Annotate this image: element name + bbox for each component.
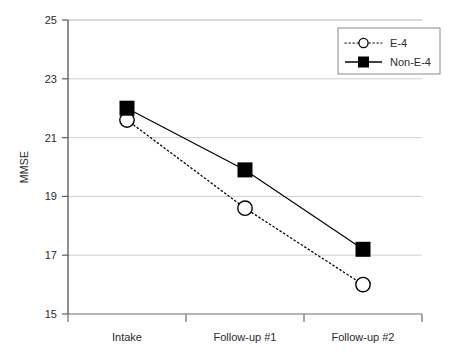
legend-label-e4: E-4 — [390, 37, 407, 49]
data-point-marker-open-circle — [356, 277, 370, 291]
y-tick-label-15: 15 — [45, 308, 57, 320]
legend: E-4 Non-E-4 — [338, 28, 440, 74]
y-tick-label-19: 19 — [45, 190, 57, 202]
data-point-marker-filled-square — [356, 242, 371, 257]
x-category-label-followup-1: Follow-up #1 — [214, 331, 277, 343]
legend-marker-open-circle-icon — [359, 38, 368, 47]
y-tick-label-23: 23 — [45, 73, 57, 85]
data-point-marker-open-circle — [238, 201, 252, 215]
legend-marker-filled-square-icon — [358, 57, 369, 68]
y-axis-title: MMSE — [18, 151, 30, 183]
y-tick-label-21: 21 — [45, 132, 57, 144]
y-tick-label-17: 17 — [45, 249, 57, 261]
legend-label-non-e4: Non-E-4 — [390, 56, 431, 68]
y-tick-label-25: 25 — [45, 14, 57, 26]
x-category-label-followup-2: Follow-up #2 — [332, 331, 395, 343]
data-point-marker-filled-square — [238, 162, 253, 177]
x-category-label-intake: Intake — [112, 331, 142, 343]
mmse-line-chart: 25 23 21 19 17 15 MMSE Intake Follow-up … — [0, 0, 460, 362]
chart-canvas: 25 23 21 19 17 15 MMSE Intake Follow-up … — [0, 0, 460, 362]
data-point-marker-filled-square — [120, 101, 135, 116]
